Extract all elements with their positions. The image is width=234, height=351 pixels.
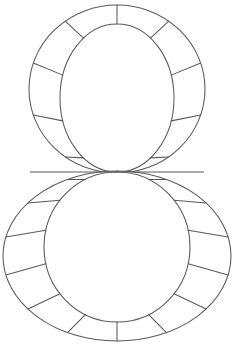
figure-canvas: [0, 0, 234, 351]
lower-ring-group: [3, 171, 231, 341]
lower-ring-inner-outline: [44, 172, 190, 322]
segmented-figure-eight-svg: [0, 0, 234, 351]
upper-ring-group: [29, 5, 205, 173]
upper-ring-inner-outline: [60, 24, 174, 172]
